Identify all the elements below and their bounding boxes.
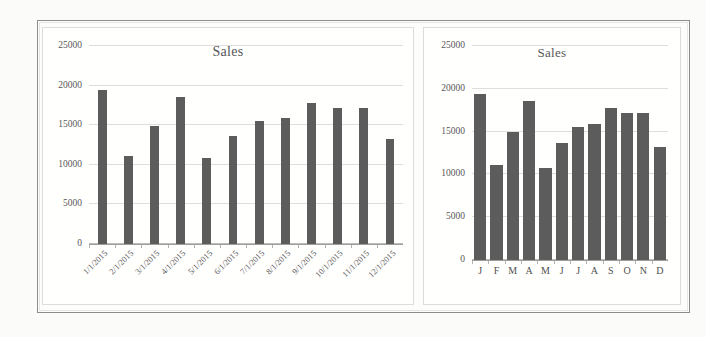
- bar-A[interactable]: [588, 124, 600, 260]
- y-tick-label-5000: 5000: [446, 211, 465, 221]
- y-tick-label-15000: 15000: [58, 119, 82, 129]
- bar-A[interactable]: [523, 101, 535, 260]
- x-tick-label-10/1/2015: 10/1/2015: [313, 248, 344, 279]
- x-tick-label-D: D: [656, 260, 663, 276]
- bar-series-left: [89, 46, 403, 244]
- x-tick-label-2/1/2015: 2/1/2015: [107, 248, 135, 276]
- x-tick-label-J: J: [560, 260, 564, 276]
- x-tick-label-8/1/2015: 8/1/2015: [264, 248, 292, 276]
- bar-S[interactable]: [605, 108, 617, 260]
- chart-inner-right: Sales 0500010000150002000025000 JFMAMJJA…: [424, 28, 680, 304]
- x-tick-label-M: M: [541, 260, 550, 276]
- y-tick-label-25000: 25000: [58, 40, 82, 50]
- y-tick-label-20000: 20000: [441, 83, 465, 93]
- bar-slot: [272, 46, 298, 244]
- bar-11/1/2015[interactable]: [359, 108, 368, 244]
- bar-4/1/2015[interactable]: [176, 97, 185, 244]
- bar-1/1/2015[interactable]: [98, 90, 107, 244]
- bar-slot: [351, 46, 377, 244]
- x-label-slot: J: [570, 260, 586, 276]
- bar-slot: [168, 46, 194, 244]
- bar-slot: [141, 46, 167, 244]
- x-axis-line-left: [89, 244, 403, 245]
- bar-slot: [194, 46, 220, 244]
- x-label-slot: M: [505, 260, 521, 276]
- bar-slot: [325, 46, 351, 244]
- chart-panel-months[interactable]: Sales 0500010000150002000025000 JFMAMJJA…: [423, 27, 681, 305]
- bar-slot: [652, 46, 668, 260]
- x-label-slot: D: [652, 260, 668, 276]
- bar-slot: [505, 46, 521, 260]
- x-label-slot: A: [586, 260, 602, 276]
- bar-slot: [220, 46, 246, 244]
- bar-slot: [635, 46, 651, 260]
- bar-F[interactable]: [490, 165, 502, 260]
- bar-12/1/2015[interactable]: [386, 139, 395, 244]
- x-tick-label-4/1/2015: 4/1/2015: [159, 248, 187, 276]
- x-tick-label-J: J: [576, 260, 580, 276]
- bar-slot: [537, 46, 553, 260]
- plot-area-right: 0500010000150002000025000: [472, 46, 668, 260]
- y-tick-label-20000: 20000: [58, 80, 82, 90]
- x-tick-label-6/1/2015: 6/1/2015: [212, 248, 240, 276]
- x-label-slot: O: [619, 260, 635, 276]
- bar-9/1/2015[interactable]: [307, 103, 316, 244]
- bar-slot: [619, 46, 635, 260]
- x-tick-label-7/1/2015: 7/1/2015: [238, 248, 266, 276]
- bar-slot: [586, 46, 602, 260]
- bar-2/1/2015[interactable]: [124, 156, 133, 244]
- x-label-slot: F: [488, 260, 504, 276]
- bar-J[interactable]: [474, 94, 486, 260]
- bar-5/1/2015[interactable]: [202, 158, 211, 244]
- x-tick-label-1/1/2015: 1/1/2015: [81, 248, 109, 276]
- bar-slot: [521, 46, 537, 260]
- bar-7/1/2015[interactable]: [255, 121, 264, 244]
- y-tick-label-5000: 5000: [63, 198, 82, 208]
- bar-O[interactable]: [621, 113, 633, 260]
- chart-inner-left: Sales 0500010000150002000025000 1/1/2015…: [43, 28, 413, 304]
- y-tick-label-10000: 10000: [58, 159, 82, 169]
- x-tick-label-11/1/2015: 11/1/2015: [340, 248, 371, 279]
- x-tick-label-A: A: [526, 260, 533, 276]
- bar-J[interactable]: [556, 143, 568, 260]
- chart-panel-dates[interactable]: Sales 0500010000150002000025000 1/1/2015…: [42, 27, 414, 305]
- x-axis-line-right: [472, 260, 668, 261]
- y-tick-label-10000: 10000: [441, 168, 465, 178]
- bar-slot: [472, 46, 488, 260]
- bar-8/1/2015[interactable]: [281, 118, 290, 244]
- x-tick-label-S: S: [608, 260, 614, 276]
- scanned-page-frame: Sales 0500010000150002000025000 1/1/2015…: [37, 20, 690, 313]
- charts-row: Sales 0500010000150002000025000 1/1/2015…: [38, 21, 689, 312]
- x-tick-label-12/1/2015: 12/1/2015: [366, 248, 397, 279]
- bar-slot: [488, 46, 504, 260]
- x-label-slot: N: [635, 260, 651, 276]
- x-tick-label-J: J: [478, 260, 482, 276]
- x-label-slot: A: [521, 260, 537, 276]
- bar-N[interactable]: [637, 113, 649, 260]
- x-tick-label-A: A: [591, 260, 598, 276]
- bar-M[interactable]: [539, 168, 551, 260]
- y-tick-label-0: 0: [77, 238, 82, 248]
- bar-slot: [89, 46, 115, 244]
- x-tick-label-5/1/2015: 5/1/2015: [185, 248, 213, 276]
- y-tick-label-15000: 15000: [441, 126, 465, 136]
- bar-slot: [603, 46, 619, 260]
- bar-6/1/2015[interactable]: [229, 136, 238, 245]
- bar-J[interactable]: [572, 127, 584, 260]
- bar-M[interactable]: [507, 132, 519, 260]
- x-tick-label-O: O: [624, 260, 631, 276]
- bar-D[interactable]: [654, 147, 666, 260]
- x-tick-label-N: N: [640, 260, 647, 276]
- x-tick-label-M: M: [508, 260, 517, 276]
- bar-10/1/2015[interactable]: [333, 108, 342, 244]
- plot-area-left: 0500010000150002000025000: [89, 46, 403, 244]
- bar-3/1/2015[interactable]: [150, 126, 159, 244]
- x-tick-label-3/1/2015: 3/1/2015: [133, 248, 161, 276]
- y-tick-label-0: 0: [460, 254, 465, 264]
- x-label-slot: J: [554, 260, 570, 276]
- bar-slot: [377, 46, 403, 244]
- x-axis-labels-right: JFMAMJJASOND: [472, 260, 668, 276]
- x-label-slot: J: [472, 260, 488, 276]
- x-tick-label-F: F: [494, 260, 500, 276]
- bar-slot: [246, 46, 272, 244]
